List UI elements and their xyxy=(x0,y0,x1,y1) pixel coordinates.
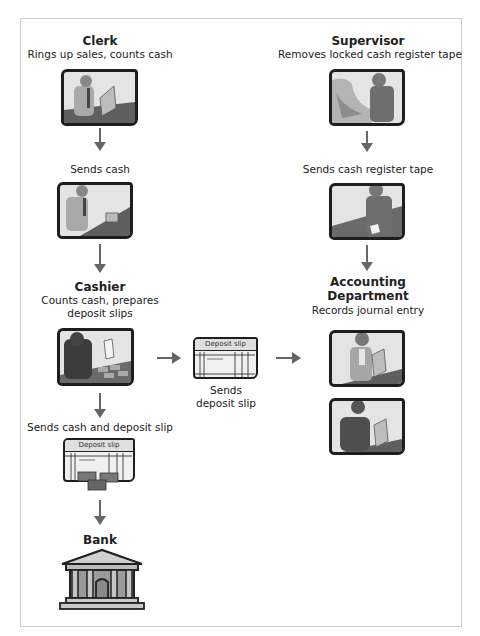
deposit-slip-icon: Deposit slip xyxy=(193,337,258,379)
sends-cash-label: Sends cash xyxy=(40,163,160,176)
accounting-description: Records journal entry xyxy=(288,304,448,317)
bank-building-icon xyxy=(58,548,146,612)
arrow-down-cashier xyxy=(99,393,101,417)
supervisor-at-register-icon xyxy=(329,69,405,126)
sends-cash-and-slip-label: Sends cash and deposit slip xyxy=(20,421,180,434)
cash-bundles-icon xyxy=(76,470,122,492)
clerk-handing-cash-icon xyxy=(57,182,133,239)
accounting-title-line2: Department xyxy=(298,289,438,303)
slip-title-middle: Deposit slip xyxy=(195,339,256,351)
supervisor-description: Removes locked cash register tape xyxy=(278,48,458,61)
clerk-at-register-icon xyxy=(61,69,138,126)
cashier-description-line1: Counts cash, prepares xyxy=(20,294,180,307)
cashier-counting-cash-icon xyxy=(57,328,134,386)
accountant-female-icon xyxy=(329,330,405,387)
sends-deposit-slip-line2: deposit slip xyxy=(180,397,272,410)
arrow-right-to-slip xyxy=(157,357,180,359)
arrow-down-supervisor xyxy=(366,131,368,151)
arrow-down-to-accounting xyxy=(366,245,368,270)
cashier-description-line2: deposit slips xyxy=(20,307,180,320)
sends-deposit-slip-line1: Sends xyxy=(190,384,262,397)
clerk-title: Clerk xyxy=(40,34,160,48)
bank-title: Bank xyxy=(40,533,160,547)
sends-tape-label: Sends cash register tape xyxy=(298,163,438,176)
slip-title-left: Deposit slip xyxy=(65,440,133,452)
accounting-title-line1: Accounting xyxy=(298,275,438,289)
arrow-down-to-bank xyxy=(99,500,101,524)
cashier-title: Cashier xyxy=(40,280,160,294)
accountant-male-icon xyxy=(329,398,405,455)
arrow-down-clerk xyxy=(99,128,101,150)
supervisor-holding-tape-icon xyxy=(329,183,405,240)
clerk-description: Rings up sales, counts cash xyxy=(20,48,180,61)
arrow-down-to-cashier xyxy=(99,244,101,272)
arrow-right-to-accounting xyxy=(276,357,300,359)
supervisor-title: Supervisor xyxy=(308,34,428,48)
